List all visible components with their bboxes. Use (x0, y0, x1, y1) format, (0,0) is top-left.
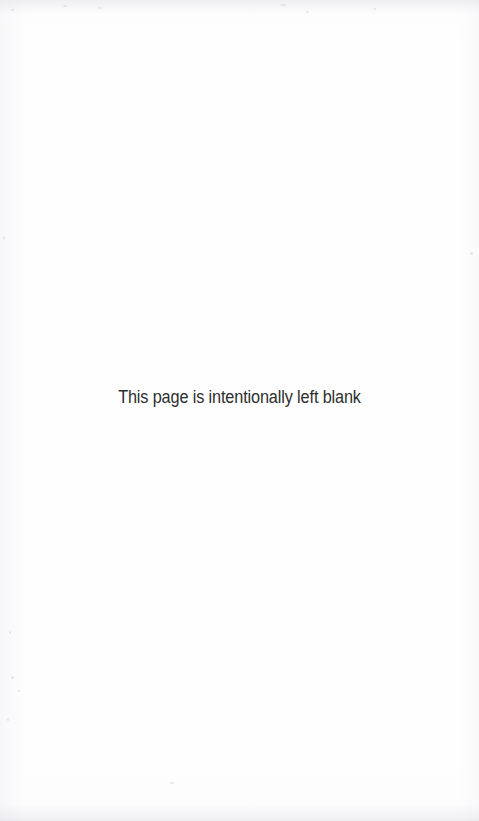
scan-speck (63, 5, 67, 7)
blank-page: This page is intentionally left blank (0, 0, 479, 821)
scan-speck (18, 690, 20, 692)
scan-speck (11, 9, 14, 11)
scan-speck (9, 631, 11, 634)
scan-speck (3, 236, 5, 240)
scan-grain-overlay (0, 0, 479, 821)
scan-speck (98, 7, 101, 9)
intentionally-blank-notice: This page is intentionally left blank (17, 386, 462, 408)
scan-speck (470, 252, 473, 255)
scan-speck (374, 8, 376, 10)
scan-speck (11, 676, 14, 679)
scan-speck (306, 11, 309, 13)
scan-speck (7, 718, 9, 721)
scan-speck (170, 782, 174, 784)
scan-speck (281, 4, 286, 6)
